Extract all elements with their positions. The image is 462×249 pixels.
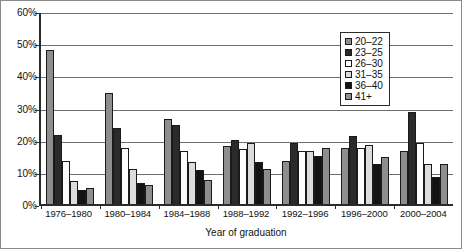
bar — [239, 149, 247, 204]
y-axis-tick-mark — [35, 206, 39, 207]
x-axis-tick-label: 1976–1980 — [39, 208, 98, 219]
bar — [180, 151, 188, 204]
bar — [145, 185, 153, 204]
bar — [263, 169, 271, 204]
bar — [78, 190, 86, 204]
legend-label: 23–25 — [355, 48, 383, 58]
x-axis-tick-label: 1988–1992 — [216, 208, 275, 219]
chart-figure: 0%10%20%30%40%50%60% 1976–19801980–19841… — [0, 0, 462, 249]
legend-item: 31–35 — [345, 69, 383, 80]
bar-group — [276, 13, 335, 204]
bar — [298, 151, 306, 204]
bar — [113, 128, 121, 204]
y-axis-tick-label: 0% — [1, 201, 37, 211]
x-axis-tick-label: 1996–2000 — [335, 208, 394, 219]
bar — [365, 145, 373, 205]
bar — [400, 151, 408, 204]
bar — [86, 188, 94, 204]
y-axis-tick-mark — [35, 77, 39, 78]
legend-label: 20–22 — [355, 37, 383, 47]
bar — [164, 119, 172, 204]
bar — [357, 148, 365, 204]
legend-label: 26–30 — [355, 59, 383, 69]
bar — [46, 50, 54, 204]
y-axis-tick-mark — [35, 174, 39, 175]
bar-group — [394, 13, 453, 204]
bar — [223, 146, 231, 204]
x-axis-tick-labels: 1976–19801980–19841984–19881988–19921992… — [39, 208, 453, 219]
bar — [121, 148, 129, 204]
legend-swatch-icon — [345, 82, 352, 89]
bar — [255, 162, 263, 204]
bar — [247, 143, 255, 204]
legend-swatch-icon — [345, 93, 352, 100]
legend-item: 41+ — [345, 91, 383, 102]
bar — [188, 162, 196, 204]
bar — [137, 183, 145, 204]
legend-item: 20–22 — [345, 36, 383, 47]
bar — [129, 169, 137, 204]
y-axis-tick-mark — [35, 142, 39, 143]
bar — [62, 161, 70, 204]
legend-swatch-icon — [345, 60, 352, 67]
legend-label: 36–40 — [355, 81, 383, 91]
bar — [54, 135, 62, 204]
y-axis-tick-mark — [35, 110, 39, 111]
bar — [231, 140, 239, 204]
bar — [432, 177, 440, 204]
bar — [70, 181, 78, 204]
bar — [416, 143, 424, 204]
y-axis-tick-label: 60% — [1, 8, 37, 18]
legend-item: 23–25 — [345, 47, 383, 58]
legend-swatch-icon — [345, 71, 352, 78]
bar — [424, 164, 432, 204]
bar — [341, 148, 349, 204]
x-axis-tick-label: 1992–1996 — [276, 208, 335, 219]
x-axis-tick-label: 1980–1984 — [98, 208, 157, 219]
bar — [105, 93, 113, 204]
bar — [408, 112, 416, 204]
bar-group — [218, 13, 277, 204]
x-axis-tick-label: 2000–2004 — [394, 208, 453, 219]
bar — [172, 125, 180, 204]
bar — [204, 180, 212, 204]
bar — [290, 143, 298, 204]
y-axis-tick-label: 50% — [1, 40, 37, 50]
legend-item: 26–30 — [345, 58, 383, 69]
bar — [373, 164, 381, 204]
legend-swatch-icon — [345, 38, 352, 45]
y-axis-tick-label: 20% — [1, 137, 37, 147]
bar — [306, 151, 314, 204]
legend-label: 31–35 — [355, 70, 383, 80]
x-axis-title: Year of graduation — [39, 227, 453, 238]
y-axis-tick-label: 10% — [1, 169, 37, 179]
y-axis-tick-label: 40% — [1, 72, 37, 82]
bar — [349, 136, 357, 204]
bar-group — [159, 13, 218, 204]
bar-group — [100, 13, 159, 204]
y-axis-tick-mark — [35, 45, 39, 46]
plot-area — [39, 13, 453, 206]
legend-swatch-icon — [345, 49, 352, 56]
legend: 20–2223–2526–3031–3536–4041+ — [340, 32, 390, 106]
legend-item: 36–40 — [345, 80, 383, 91]
bar-groups — [41, 13, 453, 204]
bar-group — [41, 13, 100, 204]
bar — [196, 170, 204, 204]
bar — [440, 164, 448, 204]
bar — [381, 157, 389, 204]
legend-label: 41+ — [355, 92, 372, 102]
y-axis-tick-mark — [35, 13, 39, 14]
x-axis-tick-label: 1984–1988 — [157, 208, 216, 219]
bar — [322, 148, 330, 204]
y-axis-tick-label: 30% — [1, 105, 37, 115]
bar — [282, 161, 290, 204]
bar — [314, 156, 322, 204]
